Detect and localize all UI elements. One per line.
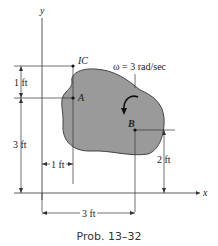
dim-b-height: 2 ft	[157, 155, 171, 165]
omega-label: ω = 3 rad/sec	[113, 62, 166, 72]
b-label: B	[128, 119, 135, 129]
ic-label: IC	[78, 56, 88, 66]
dim-a-height: 3 ft	[13, 140, 27, 150]
y-axis-label: y	[40, 6, 44, 16]
rigid-body	[62, 69, 164, 155]
dim-ic-to-a: 1 ft	[14, 78, 28, 88]
x-axis-label: x	[203, 188, 207, 198]
point-a	[71, 96, 74, 99]
ic-point	[71, 64, 74, 67]
diagram-canvas	[0, 0, 218, 246]
figure-caption: Prob. 13–32	[0, 230, 218, 243]
dim-a-x: 1 ft	[51, 160, 65, 170]
a-label: A	[78, 93, 84, 103]
dim-b-x: 3 ft	[82, 209, 96, 219]
